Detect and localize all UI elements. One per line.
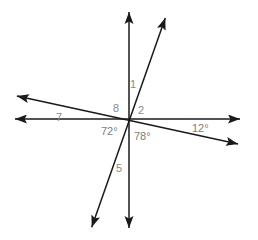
angle-label-72deg: 72° [101, 126, 118, 137]
angle-label-12deg: 12° [192, 123, 209, 134]
geometry-figure: 1 8 2 7 12° 72° 78° 5 [0, 0, 258, 240]
angle-label-78deg: 78° [134, 131, 151, 142]
angle-label-2: 2 [138, 105, 144, 116]
angle-label-8: 8 [113, 103, 119, 114]
shallow-diagonal-line [17, 96, 238, 144]
geometry-lines-canvas [0, 0, 258, 240]
angle-label-1: 1 [130, 79, 136, 90]
angle-label-7: 7 [56, 112, 62, 123]
angle-label-5: 5 [116, 163, 122, 174]
